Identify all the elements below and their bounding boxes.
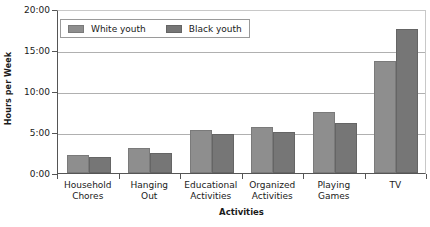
y-tick-mark <box>52 10 57 11</box>
y-tick-mark <box>52 92 57 93</box>
bar-group <box>251 11 295 173</box>
y-tick-label: 0:00 <box>30 169 50 179</box>
x-tick-mark <box>365 174 366 179</box>
legend-entry[interactable]: White youth <box>68 24 146 34</box>
bar-group <box>374 11 418 173</box>
y-tick-label: 10:00 <box>24 87 50 97</box>
bar[interactable] <box>251 127 273 173</box>
bar[interactable] <box>313 112 335 174</box>
bar[interactable] <box>273 132 295 173</box>
chart-legend: White youthBlack youth <box>60 19 250 38</box>
x-tick-label: Household Chores <box>57 180 119 202</box>
bar[interactable] <box>150 153 172 173</box>
bar[interactable] <box>67 155 89 173</box>
legend-swatch-icon <box>166 25 182 33</box>
x-tick-label: Organized Activities <box>242 180 304 202</box>
y-axis-tick-labels: 0:005:0010:0015:0020:00 <box>16 0 54 180</box>
x-tick-label: Educational Activities <box>180 180 242 202</box>
x-axis-tick-labels: Household ChoresHanging OutEducational A… <box>57 180 426 208</box>
x-tick-label: Hanging Out <box>119 180 181 202</box>
bar[interactable] <box>190 130 212 173</box>
x-tick-mark <box>119 174 120 179</box>
bar-group <box>313 11 357 173</box>
x-axis-title: Activities <box>57 207 426 217</box>
y-tick-mark <box>52 51 57 52</box>
bar[interactable] <box>374 61 396 173</box>
bar-chart: Hours per Week 0:005:0010:0015:0020:00 W… <box>0 0 430 227</box>
x-tick-mark <box>426 174 427 179</box>
bar[interactable] <box>128 148 150 173</box>
y-tick-label: 5:00 <box>30 128 50 138</box>
x-tick-label: TV <box>365 180 427 191</box>
x-tick-label: Playing Games <box>303 180 365 202</box>
y-tick-label: 20:00 <box>24 5 50 15</box>
x-tick-mark <box>303 174 304 179</box>
legend-label: Black youth <box>189 24 242 34</box>
x-tick-mark <box>180 174 181 179</box>
bar[interactable] <box>335 123 357 173</box>
legend-entry[interactable]: Black youth <box>166 24 242 34</box>
y-tick-mark <box>52 133 57 134</box>
legend-swatch-icon <box>68 25 84 33</box>
y-axis-title-label: Hours per Week <box>5 51 14 124</box>
x-tick-mark <box>242 174 243 179</box>
legend-label: White youth <box>91 24 146 34</box>
bar[interactable] <box>396 29 418 173</box>
bar[interactable] <box>89 157 111 173</box>
x-tick-mark <box>57 174 58 179</box>
y-tick-label: 15:00 <box>24 46 50 56</box>
bar[interactable] <box>212 134 234 173</box>
